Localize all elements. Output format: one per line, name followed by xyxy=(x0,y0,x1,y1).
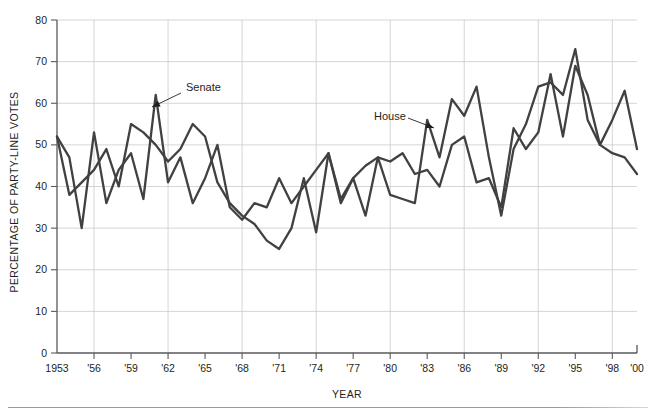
x-tick-label-1986: '86 xyxy=(457,362,471,374)
x-tick-label-1965: '65 xyxy=(198,362,212,374)
x-tick-label-1971: '71 xyxy=(272,362,286,374)
x-tick-labels: 1953'56'59'62'65'68'71'74'77'80'83'86'89… xyxy=(45,362,644,374)
house-label: House xyxy=(374,110,406,122)
y-tick-label-30: 30 xyxy=(35,222,47,234)
senate-label: Senate xyxy=(186,81,221,93)
x-tick-label-1953: 1953 xyxy=(45,362,69,374)
y-tick-label-10: 10 xyxy=(35,305,47,317)
x-tick-label-1962: '62 xyxy=(161,362,175,374)
x-tick-label-1989: '89 xyxy=(494,362,508,374)
x-tick-label-1968: '68 xyxy=(235,362,249,374)
y-tick-label-40: 40 xyxy=(35,180,47,192)
footer-rule xyxy=(8,407,648,408)
x-tick-label-1974: '74 xyxy=(309,362,323,374)
y-tick-label-60: 60 xyxy=(35,97,47,109)
x-tick-label-1992: '92 xyxy=(531,362,545,374)
x-tick-label-1998: '98 xyxy=(605,362,619,374)
x-axis-title: YEAR xyxy=(332,388,362,400)
x-tick-label-1980: '80 xyxy=(383,362,397,374)
x-tick-label-1956: '56 xyxy=(87,362,101,374)
y-tick-label-70: 70 xyxy=(35,55,47,67)
party-line-votes-chart: 01020304050607080 1953'56'59'62'65'68'71… xyxy=(0,0,662,418)
annotation-house: House xyxy=(374,110,434,128)
y-axis-title: PERCENTAGE OF PARTY-LINE VOTES xyxy=(8,92,20,293)
y-tick-labels: 01020304050607080 xyxy=(35,14,47,359)
x-tick-marks xyxy=(94,353,612,359)
x-tick-label-1959: '59 xyxy=(124,362,138,374)
y-tick-marks xyxy=(51,20,57,353)
y-tick-label-80: 80 xyxy=(35,14,47,26)
x-axis xyxy=(57,345,637,353)
x-tick-label-1995: '95 xyxy=(568,362,582,374)
y-tick-label-20: 20 xyxy=(35,263,47,275)
gridlines xyxy=(57,20,637,311)
y-tick-label-50: 50 xyxy=(35,138,47,150)
x-tick-label-1977: '77 xyxy=(346,362,360,374)
chart-figure: 01020304050607080 1953'56'59'62'65'68'71… xyxy=(0,0,662,418)
y-tick-label-0: 0 xyxy=(41,347,47,359)
series-line-senate xyxy=(57,66,637,228)
x-tick-label-2000: '00 xyxy=(630,362,644,374)
x-tick-label-1983: '83 xyxy=(420,362,434,374)
